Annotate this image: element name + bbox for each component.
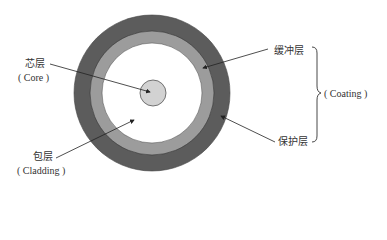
core-layer bbox=[140, 80, 166, 106]
core-label-zh: 芯层 bbox=[25, 58, 45, 70]
protective-label-zh: 保护层 bbox=[278, 136, 308, 148]
core-label-en: ( Core ) bbox=[18, 72, 49, 84]
buffer-label-zh: 缓冲层 bbox=[274, 45, 304, 57]
cladding-label-zh: 包层 bbox=[33, 151, 53, 163]
protective-pointer-arrow bbox=[221, 116, 275, 142]
cladding-label-en: ( Cladding ) bbox=[17, 165, 65, 177]
coating-brace bbox=[312, 47, 321, 142]
coating-label-en: ( Coating ) bbox=[324, 88, 367, 100]
